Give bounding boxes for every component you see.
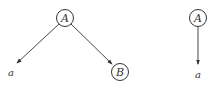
edge-a-to-b xyxy=(71,24,112,64)
tree-diagram: A a B A a xyxy=(0,0,219,88)
leaf-a-left-label: a xyxy=(8,67,14,78)
diagram-svg: A a B A a xyxy=(0,0,219,88)
right-tree: A a xyxy=(190,10,207,81)
edge-a-to-leaf-a xyxy=(17,24,59,63)
node-b-label: B xyxy=(115,66,124,79)
node-a-left-label: A xyxy=(60,12,69,25)
leaf-a-right-label: a xyxy=(195,69,201,80)
left-tree: A a B xyxy=(8,10,128,81)
node-a-right-label: A xyxy=(193,12,202,25)
